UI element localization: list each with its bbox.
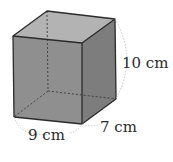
rectangular-prism-diagram: 10 cm 9 cm 7 cm bbox=[0, 0, 173, 162]
height-label: 10 cm bbox=[122, 54, 168, 72]
depth-label: 7 cm bbox=[100, 118, 137, 136]
width-label: 9 cm bbox=[28, 126, 65, 144]
